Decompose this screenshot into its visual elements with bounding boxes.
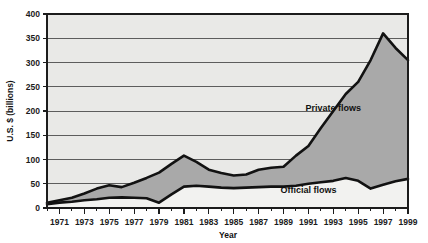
y-tick-label-150: 150 bbox=[26, 130, 40, 140]
y-tick-label-300: 300 bbox=[26, 58, 40, 68]
x-tick-label-1997: 1997 bbox=[374, 217, 393, 227]
chart-canvas: 050100150200250300350400 197119731975197… bbox=[0, 0, 428, 243]
x-axis-title: Year bbox=[219, 230, 238, 240]
x-tick-label-1971: 1971 bbox=[50, 217, 69, 227]
y-axis-title: U.S. $ (billions) bbox=[5, 80, 15, 142]
x-tick-label-1999: 1999 bbox=[399, 217, 418, 227]
x-tick-label-1979: 1979 bbox=[150, 217, 169, 227]
y-tick-label-200: 200 bbox=[26, 106, 40, 116]
x-tick-label-1991: 1991 bbox=[299, 217, 318, 227]
y-tick-label-400: 400 bbox=[26, 9, 40, 19]
y-tick-label-350: 350 bbox=[26, 33, 40, 43]
y-tick-label-0: 0 bbox=[35, 203, 40, 213]
series-label-private-flows: Private flows bbox=[306, 103, 362, 113]
x-tick-label-1983: 1983 bbox=[199, 217, 218, 227]
x-tick-label-1987: 1987 bbox=[249, 217, 268, 227]
series-label-official-flows: Official flows bbox=[280, 185, 336, 195]
capital-flows-area-chart: 050100150200250300350400 197119731975197… bbox=[0, 0, 428, 243]
x-tick-label-1973: 1973 bbox=[75, 217, 94, 227]
y-tick-label-50: 50 bbox=[31, 179, 41, 189]
x-tick-label-1989: 1989 bbox=[274, 217, 293, 227]
y-tick-label-250: 250 bbox=[26, 82, 40, 92]
x-axis-tick-labels-group: 1971197319751977197919811983198519871989… bbox=[50, 217, 418, 227]
x-tick-label-1993: 1993 bbox=[324, 217, 343, 227]
x-tick-label-1995: 1995 bbox=[349, 217, 368, 227]
x-tick-label-1981: 1981 bbox=[174, 217, 193, 227]
y-tick-label-100: 100 bbox=[26, 155, 40, 165]
x-tick-label-1977: 1977 bbox=[125, 217, 144, 227]
x-tick-label-1985: 1985 bbox=[224, 217, 243, 227]
x-tick-label-1975: 1975 bbox=[100, 217, 119, 227]
